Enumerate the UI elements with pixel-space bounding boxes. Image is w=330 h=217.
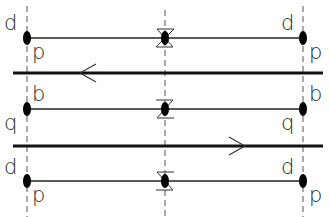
dot-r1-left bbox=[23, 31, 31, 45]
dot-r2-right bbox=[299, 102, 307, 116]
label-r2-right-bottom: q bbox=[281, 111, 294, 135]
diagram-canvas: d p d p b q b q d p d p bbox=[0, 0, 330, 217]
label-r3-right-bottom: p bbox=[309, 183, 322, 207]
dot-r1-middle bbox=[161, 31, 169, 45]
label-r3-left-top: d bbox=[4, 155, 17, 179]
dot-r3-middle bbox=[161, 174, 169, 188]
diagram-svg: d p d p b q b q d p d p bbox=[0, 0, 330, 217]
label-r2-left-top: b bbox=[32, 82, 45, 106]
dot-r2-middle bbox=[161, 102, 169, 116]
label-r2-right-top: b bbox=[309, 82, 322, 106]
label-r1-right-top: d bbox=[281, 11, 294, 35]
label-r2-left-bottom: q bbox=[4, 111, 17, 135]
dot-r1-right bbox=[299, 31, 307, 45]
dot-r3-right bbox=[299, 174, 307, 188]
label-r1-left-top: d bbox=[4, 11, 17, 35]
label-r1-right-bottom: p bbox=[309, 40, 322, 64]
dot-r3-left bbox=[23, 174, 31, 188]
label-r1-left-bottom: p bbox=[32, 40, 45, 64]
label-r3-left-bottom: p bbox=[32, 183, 45, 207]
label-r3-right-top: d bbox=[281, 155, 294, 179]
dot-r2-left bbox=[23, 102, 31, 116]
